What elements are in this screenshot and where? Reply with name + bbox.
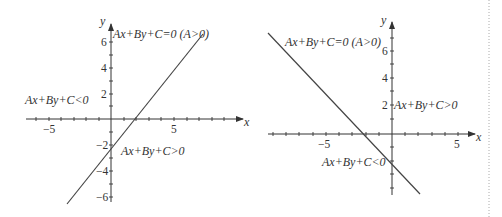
left-y-tick-2: 2 xyxy=(101,88,107,100)
left-y-tick-neg4: −4 xyxy=(96,165,108,177)
left-region-positive-label: Ax+By+C>0 xyxy=(120,144,185,158)
right-y-tick-2: 2 xyxy=(382,99,388,111)
right-figure: −5 5 6 4 2 x y Ax+By+C=0 (A>0) Ax+By+C>0… xyxy=(268,13,482,195)
right-x-tick-5: 5 xyxy=(454,138,460,150)
left-y-tick-neg6: −6 xyxy=(96,191,108,203)
left-x-axis-label: x xyxy=(243,115,250,129)
diagram-canvas: −5 5 6 4 2 −2 −4 −6 x y Ax+By+C=0 (A>0) … xyxy=(0,0,502,217)
right-x-tick-neg5: −5 xyxy=(318,138,330,150)
right-x-axis-label: x xyxy=(475,130,482,144)
left-y-axis-label: y xyxy=(99,14,106,28)
left-y-tick-6: 6 xyxy=(101,36,107,48)
right-line-label: Ax+By+C=0 (A>0) xyxy=(284,35,381,49)
right-y-tick-6: 6 xyxy=(382,45,388,57)
right-y-axis-label: y xyxy=(380,13,387,27)
right-region-negative-label: Ax+By+C<0 xyxy=(321,155,386,169)
right-y-tick-4: 4 xyxy=(382,72,388,84)
left-line-label: Ax+By+C=0 (A>0) xyxy=(112,27,209,41)
right-boundary-line xyxy=(268,33,420,194)
left-x-tick-neg5: −5 xyxy=(43,123,55,135)
left-x-tick-5: 5 xyxy=(171,123,177,135)
left-y-tick-4: 4 xyxy=(101,62,107,74)
right-region-positive-label: Ax+By+C>0 xyxy=(393,98,458,112)
left-figure: −5 5 6 4 2 −2 −4 −6 x y Ax+By+C=0 (A>0) … xyxy=(24,14,250,204)
left-region-negative-label: Ax+By+C<0 xyxy=(24,93,89,107)
left-y-tick-neg2: −2 xyxy=(96,139,108,151)
